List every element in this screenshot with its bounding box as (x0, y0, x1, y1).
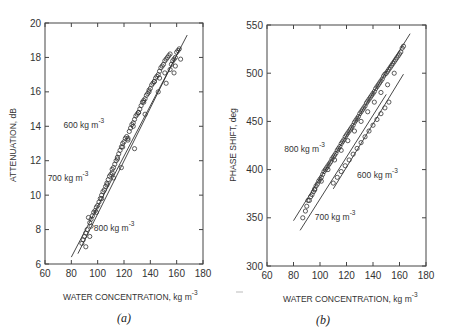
y-tick-label: 400 (246, 164, 263, 175)
panel-caption: (b) (316, 313, 330, 327)
y-tick-labels: 300350400450500550 (246, 20, 263, 272)
data-point (339, 169, 343, 173)
data-point (301, 216, 305, 220)
density-annotation: 700 kg m-3 (315, 209, 356, 222)
x-tick-label: 140 (142, 268, 159, 279)
data-points (301, 44, 406, 220)
data-point (387, 100, 391, 104)
data-point (163, 71, 167, 75)
annotations: 800 kg m-3600 kg m-3700 kg m-3 (284, 141, 398, 221)
x-tick-label: 160 (168, 268, 185, 279)
y-tick-labels: 68101214161820 (30, 18, 42, 270)
data-point (343, 164, 347, 168)
y-tick-label: 8 (35, 224, 41, 235)
y-tick-label: 18 (30, 52, 42, 63)
y-axis-label: PHASE SHIFT, deg (228, 108, 238, 182)
y-tick-label: 6 (35, 259, 41, 270)
density-annotation: 800 kg m-3 (94, 220, 135, 233)
data-point (379, 90, 383, 94)
x-tick-label: 140 (365, 270, 382, 281)
x-axis-label-text: WATER CONCENTRATION, kg m (283, 294, 412, 304)
data-point (335, 175, 339, 179)
figure: 6080100120140160180 68101214161820 600 k… (0, 0, 450, 330)
x-tick-labels: 6080100120140160180 (39, 268, 211, 279)
y-tick-label: 450 (246, 116, 263, 127)
data-point (331, 181, 335, 185)
fit-line (300, 94, 386, 230)
data-point (392, 71, 396, 75)
data-point (173, 64, 177, 68)
x-axis-label-text: WATER CONCENTRATION, kg m (63, 292, 192, 302)
x-tick-label: 60 (39, 268, 51, 279)
panel-a-attenuation-chart: 6080100120140160180 68101214161820 600 k… (8, 18, 212, 326)
y-tick-label: 550 (246, 20, 263, 31)
data-point (84, 245, 88, 249)
x-tick-label: 100 (312, 270, 329, 281)
panel-b-phase-shift-chart: 6080100120140160180 300350400450500550 8… (228, 20, 435, 328)
panel-caption: (a) (117, 311, 131, 325)
data-point (366, 110, 370, 114)
density-annotation: 600 kg m-3 (63, 117, 104, 130)
y-tick-label: 16 (30, 86, 42, 97)
data-point (383, 106, 387, 110)
x-tick-labels: 6080100120140160180 (261, 270, 434, 281)
y-tick-label: 500 (246, 68, 263, 79)
data-point (385, 83, 389, 87)
y-tick-label: 12 (30, 155, 42, 166)
data-point (346, 139, 350, 143)
annotations: 600 kg m-3700 kg m-3800 kg m-3 (48, 117, 135, 233)
y-tick-label: 20 (30, 18, 42, 29)
density-annotation: 700 kg m-3 (48, 170, 89, 183)
data-point (352, 129, 356, 133)
data-point (172, 71, 176, 75)
x-tick-label: 120 (338, 270, 355, 281)
data-point (359, 119, 363, 123)
y-tick-label: 14 (30, 121, 42, 132)
data-point (305, 204, 309, 208)
x-tick-label: 160 (391, 270, 408, 281)
x-axis-label-sup: -3 (412, 291, 418, 298)
density-annotation: 600 kg m-3 (357, 167, 398, 180)
x-tick-label: 120 (116, 268, 133, 279)
x-tick-label: 60 (261, 270, 273, 281)
x-tick-label: 80 (66, 268, 78, 279)
data-point (88, 234, 92, 238)
data-point (179, 57, 183, 61)
y-axis-label: ATTENUATION, dB (8, 108, 18, 182)
y-tick-label: 300 (246, 261, 263, 272)
y-tick-label: 10 (30, 190, 42, 201)
y-tick-label: 350 (246, 212, 263, 223)
x-tick-label: 180 (195, 268, 212, 279)
data-point (164, 81, 168, 85)
x-tick-label: 100 (89, 268, 106, 279)
x-tick-label: 80 (288, 270, 300, 281)
x-axis-label: WATER CONCENTRATION, kg m-3 (63, 289, 198, 302)
x-axis-label: WATER CONCENTRATION, kg m-3 (283, 291, 418, 304)
data-point (372, 100, 376, 104)
data-point (132, 147, 136, 151)
x-axis-label-sup: -3 (192, 289, 198, 296)
density-annotation: 800 kg m-3 (284, 141, 325, 154)
data-point (303, 209, 307, 213)
x-tick-label: 180 (418, 270, 435, 281)
